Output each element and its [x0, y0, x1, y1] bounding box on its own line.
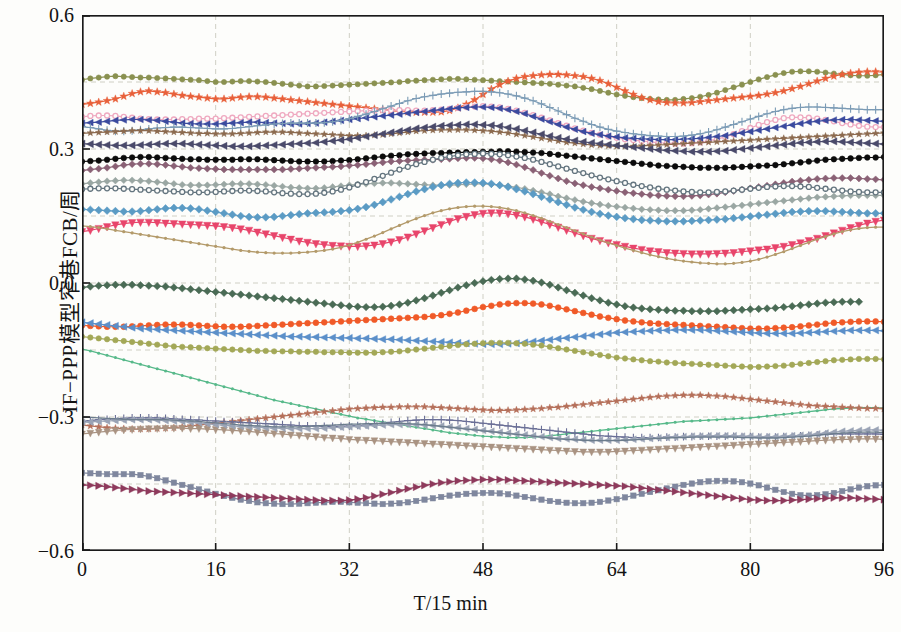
y-tick-label: 0.0 [14, 272, 74, 295]
x-tick-label: 16 [186, 558, 246, 581]
y-tick-label: 0.6 [14, 4, 74, 27]
x-axis-label-text: T/15 min [414, 592, 488, 614]
x-tick-label: 64 [587, 558, 647, 581]
x-tick-label: 96 [854, 558, 901, 581]
x-tick-label: 0 [52, 558, 112, 581]
x-axis-label: T/15 min [0, 592, 901, 615]
y-axis-tick-labels: −0.6−0.30.00.30.6 [0, 15, 74, 551]
chart-canvas [82, 15, 884, 551]
plot-area [82, 15, 884, 551]
y-tick-label: 0.3 [14, 138, 74, 161]
x-axis-tick-labels: 0163248648096 [82, 558, 884, 584]
x-tick-label: 32 [319, 558, 379, 581]
x-tick-label: 80 [720, 558, 780, 581]
y-tick-label: −0.3 [14, 406, 74, 429]
chart-figure: IF−PPP模型窄巷FCB/周 −0.6−0.30.00.30.6 016324… [0, 0, 901, 632]
x-tick-label: 48 [453, 558, 513, 581]
